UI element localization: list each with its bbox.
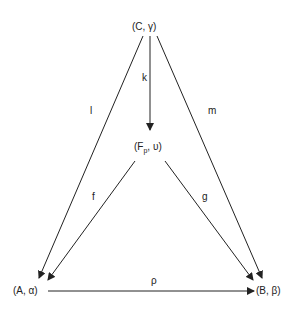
arrow-l [39,36,143,278]
node-fp-upsilon: (Fp, υ) [134,141,162,154]
edge-label-rho: ρ [151,275,157,286]
edge-label-k: k [142,72,147,83]
edge-label-m: m [208,105,216,116]
node-a-alpha: (A, α) [13,285,38,296]
arrow-g [165,161,253,280]
node-b-beta: (B, β) [256,285,281,296]
node-c-gamma: (C, γ) [132,21,156,32]
node-fp-suffix: , υ) [147,141,161,152]
edge-label-g: g [202,191,208,202]
edge-label-f: f [92,191,95,202]
edge-label-l: l [90,105,92,116]
arrow-m [157,36,262,278]
diagram-arrows [0,0,298,314]
arrow-f [48,161,135,280]
